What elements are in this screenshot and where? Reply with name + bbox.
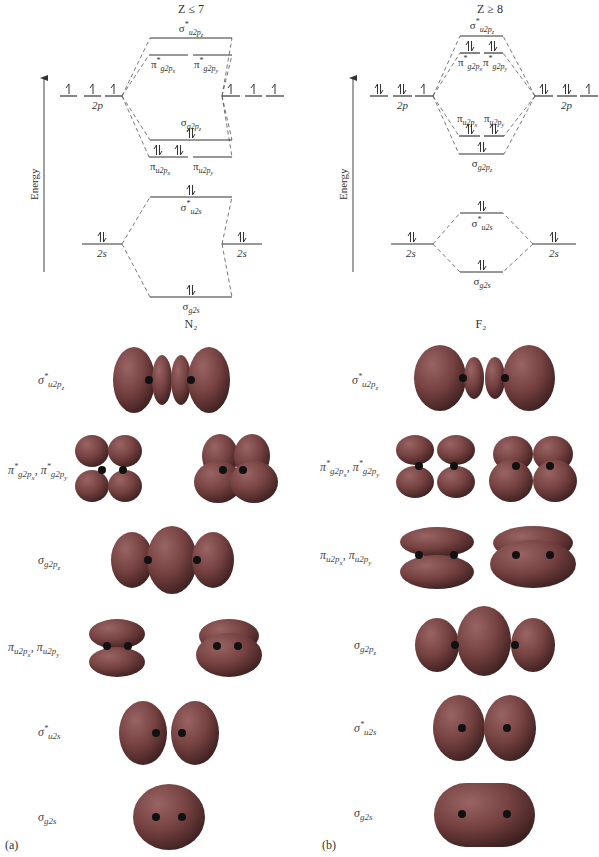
label-pi-star-g2py: π*g2py (483, 54, 508, 72)
panel-tag-b: (b) (322, 838, 336, 853)
label-pi-star-g2px: π*g2px (458, 54, 483, 72)
diagram-panel-b: Z ≥ 8 Energy (337, 2, 598, 331)
mo-levels-a (60, 38, 284, 297)
condition-label-b: Z ≥ 8 (477, 2, 503, 16)
orbital-a-sigma-star-u2pz (113, 347, 230, 413)
correlation-lines-2p-a (122, 38, 232, 157)
label-2s-right: 2s (549, 247, 559, 259)
row-label-b-sigma-star-u2s: σ*u2s (354, 720, 376, 737)
label-pi-star-g2py: π*g2py (194, 56, 219, 74)
orbital-b-sigma-g2s (434, 783, 535, 847)
mo-levels-b (370, 36, 598, 272)
orbital-a-sigma-star-u2s (119, 701, 219, 765)
label-2s-left: 2s (406, 247, 416, 259)
energy-axis-label-b: Energy (337, 168, 349, 200)
orbital-a-pi-u2p-side (89, 619, 145, 677)
label-sigma-star-u2s: σ*u2s (180, 199, 201, 216)
label-2p-right: 2p (561, 99, 573, 111)
label-2s-left: 2s (97, 247, 107, 259)
row-label-b-sigma-star-u2pz: σ*u2pz (352, 372, 378, 392)
orbital-a-pi-star-g2p-top (194, 434, 278, 503)
orbital-b-sigma-star-u2pz (414, 345, 555, 411)
molecule-label-b: F₂ (476, 317, 487, 331)
mo-diagram-canvas: Z ≤ 7 Energy (0, 0, 599, 857)
orbital-a-pi-u2p-top (196, 619, 262, 677)
diagram-panel-a: Z ≤ 7 Energy (28, 2, 284, 331)
label-2s-right: 2s (237, 247, 247, 259)
label-sigma-star-u2pz: σ*u2pz (179, 20, 204, 38)
label-sigma-g2pz: σg2pz (472, 157, 493, 173)
orbital-a-pi-star-g2p-side (75, 435, 142, 502)
orbital-a-sigma-g2pz (111, 526, 234, 594)
electrons-b (375, 41, 589, 270)
label-pi-u2py: πu2py (193, 160, 214, 176)
correlation-lines-2s-a (122, 197, 232, 297)
row-label-b-pi-u2p: πu2px, πu2py (320, 548, 371, 567)
orbital-b-pi-star-g2p-top (489, 436, 577, 502)
energy-axis-label-a: Energy (28, 168, 40, 200)
label-2p-left: 2p (397, 99, 409, 111)
row-label-a-sigma-star-u2pz: σ*u2pz (38, 372, 64, 392)
row-label-b-sigma-g2pz: σg2pz (354, 638, 376, 657)
label-sigma-g2s: σg2s (473, 275, 490, 290)
label-sigma-g2s: σg2s (182, 300, 199, 315)
mo-labels-a: σ*u2pz π*g2px π*g2py σg2pz πu2px πu2py σ… (92, 20, 247, 315)
row-label-a-sigma-g2s: σg2s (38, 810, 56, 826)
label-sigma-star-u2pz: σ*u2pz (470, 17, 495, 35)
label-sigma-star-u2s: σ*u2s (471, 215, 492, 232)
orbital-b-pi-u2p-top (490, 526, 576, 588)
row-label-b-pi-star-g2p: π*g2px, π*g2py (320, 459, 379, 479)
row-label-b-sigma-g2s: σg2s (354, 806, 372, 822)
row-label-a-pi-u2p: πu2px, πu2py (8, 640, 59, 659)
molecule-label-a: N₂ (185, 317, 198, 331)
label-pi-u2py: πu2py (484, 112, 505, 128)
row-label-a-pi-star-g2p: π*g2px, π*g2py (8, 462, 67, 482)
panel-tag-a: (a) (5, 838, 18, 853)
orbital-a-sigma-g2s (133, 784, 205, 850)
condition-label-a: Z ≤ 7 (178, 2, 204, 16)
label-pi-star-g2px: π*g2px (151, 56, 176, 74)
electrons-a (66, 84, 275, 295)
label-pi-u2px: πu2px (457, 112, 478, 128)
row-label-a-sigma-g2pz: σg2pz (38, 553, 60, 572)
orbital-b-sigma-g2pz (415, 606, 555, 676)
label-sigma-g2pz: σg2pz (181, 116, 202, 132)
label-2p-left: 2p (92, 99, 104, 111)
row-label-a-sigma-star-u2s: σ*u2s (38, 724, 60, 741)
orbital-renderings (75, 345, 577, 850)
orbital-b-pi-u2p-side (400, 527, 474, 589)
label-pi-u2px: πu2px (150, 160, 171, 176)
orbital-b-sigma-star-u2s (433, 695, 536, 761)
orbital-b-pi-star-g2p-side (396, 435, 475, 498)
